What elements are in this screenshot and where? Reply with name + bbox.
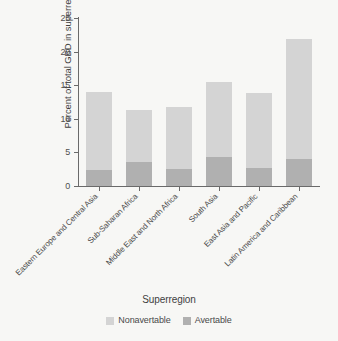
y-axis-tick-label: 25 xyxy=(60,14,70,23)
y-axis-tick-label: 10 xyxy=(60,115,70,124)
bar-group xyxy=(246,93,272,186)
plot-area xyxy=(79,18,319,186)
legend-entry[interactable]: Avertable xyxy=(183,316,232,325)
bar-group xyxy=(126,110,152,186)
bar-segment-nonavertable xyxy=(206,82,232,157)
x-axis-category-labels: Eastern Europe and Central AsiaSub-Sahar… xyxy=(0,186,338,296)
y-axis-tick-label: 15 xyxy=(60,81,70,90)
legend-label: Nonavertable xyxy=(118,316,170,325)
bar-group xyxy=(86,92,112,186)
bar-segment-avertable xyxy=(126,162,152,186)
bar-segment-nonavertable xyxy=(166,107,192,169)
chart-legend: NonavertableAvertable xyxy=(0,316,338,325)
y-axis-tick-label: 20 xyxy=(60,48,70,57)
y-axis-tick-mark xyxy=(74,119,78,120)
bar-group xyxy=(166,107,192,186)
chart-figure: Percent of total GBD in superregions 051… xyxy=(0,0,338,341)
x-axis-title: Superregion xyxy=(0,294,338,305)
bar-segment-avertable xyxy=(286,159,312,186)
bar-segment-avertable xyxy=(246,168,272,186)
y-axis-tick-label: 5 xyxy=(65,148,70,157)
legend-swatch-icon xyxy=(106,317,114,325)
y-axis-tick-mark xyxy=(74,52,78,53)
bar-group xyxy=(206,82,232,186)
bar-segment-avertable xyxy=(206,157,232,186)
bar-group xyxy=(286,39,312,186)
legend-entry[interactable]: Nonavertable xyxy=(106,316,170,325)
y-axis-tick-mark xyxy=(74,85,78,86)
legend-label: Avertable xyxy=(195,316,232,325)
bar-segment-avertable xyxy=(166,169,192,186)
bar-segment-avertable xyxy=(86,170,112,186)
legend-swatch-icon xyxy=(183,317,191,325)
bar-segment-nonavertable xyxy=(246,93,272,168)
bar-segment-nonavertable xyxy=(126,110,152,162)
bar-segment-nonavertable xyxy=(286,39,312,159)
y-axis-tick-mark xyxy=(74,152,78,153)
y-axis-tick-mark xyxy=(74,18,78,19)
bar-segment-nonavertable xyxy=(86,92,112,170)
